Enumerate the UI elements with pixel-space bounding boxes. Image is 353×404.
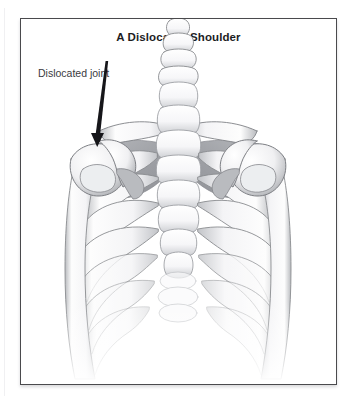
figure-page: A Dislocated Shoulder Dislocated joint bbox=[0, 0, 353, 404]
bottom-fade-mask bbox=[21, 301, 335, 383]
cervical-vertebrae bbox=[158, 19, 198, 88]
leader-line bbox=[95, 61, 108, 139]
spinal-column bbox=[156, 82, 201, 278]
skeleton-illustration bbox=[21, 19, 336, 384]
page-edge-rule bbox=[4, 8, 5, 396]
clipped-header-artifact bbox=[108, 0, 308, 6]
figure-panel: A Dislocated Shoulder Dislocated joint bbox=[20, 18, 337, 385]
